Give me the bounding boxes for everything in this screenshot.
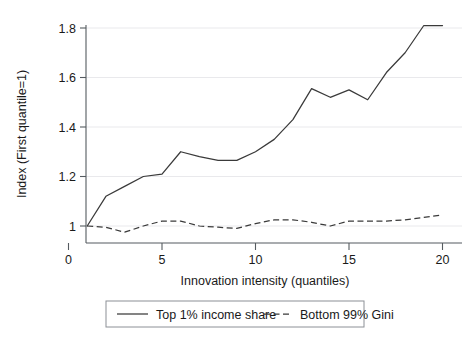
series-line-top-1-percent-income-share (87, 26, 442, 226)
y-tick-label-1.8: 1.8 (59, 22, 76, 36)
y-tick-label-1.4: 1.4 (59, 121, 76, 135)
y-axis: 1.8 1.6 1.4 1.2 1 Index (First quantile=… (15, 22, 86, 244)
y-tick-label-1.2: 1.2 (59, 170, 76, 184)
x-tick-label-0: 0 (65, 253, 72, 267)
line-chart: 1.8 1.6 1.4 1.2 1 Index (First quantile=… (0, 0, 470, 339)
x-axis-title: Innovation intensity (quantiles) (181, 274, 350, 288)
series-line-bottom-99-percent-gini (87, 215, 442, 232)
y-tick-label-1: 1 (69, 220, 76, 234)
y-tick-label-1.6: 1.6 (59, 71, 76, 85)
x-tick-label-20: 20 (436, 253, 450, 267)
chart-figure: 1.8 1.6 1.4 1.2 1 Index (First quantile=… (0, 0, 470, 339)
gridlines (86, 28, 462, 226)
x-axis: 0 5 10 15 20 Innovation intensity (quant… (65, 243, 462, 288)
x-tick-label-10: 10 (249, 253, 263, 267)
chart-legend: Top 1% income share Bottom 99% Gini (106, 301, 394, 327)
y-axis-title: Index (First quantile=1) (15, 70, 29, 198)
legend-label-top-1-percent-income-share: Top 1% income share (156, 308, 276, 322)
x-tick-label-5: 5 (159, 253, 166, 267)
x-tick-label-15: 15 (342, 253, 356, 267)
legend-label-bottom-99-percent-gini: Bottom 99% Gini (300, 308, 394, 322)
